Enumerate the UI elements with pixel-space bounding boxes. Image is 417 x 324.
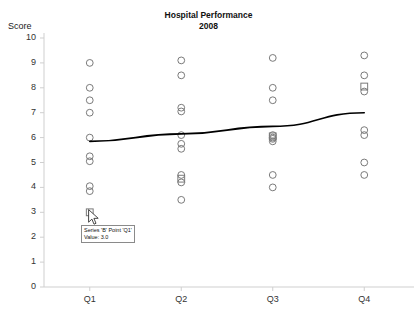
y-tick-label: 4 [12,181,36,191]
data-point-circle[interactable] [178,132,185,139]
data-point-circle[interactable] [361,88,368,95]
data-point-circle[interactable] [178,196,185,203]
x-tick-label: Q1 [70,294,110,304]
y-tick-label: 5 [12,157,36,167]
data-point-circle[interactable] [178,145,185,152]
data-point-circle[interactable] [86,97,93,104]
tooltip: Series 'B' Point 'Q1' Value: 3.0 [81,225,135,243]
y-tick-label: 3 [12,206,36,216]
y-tick-label: 6 [12,132,36,142]
data-point-circle[interactable] [361,52,368,59]
y-tick-label: 1 [12,256,36,266]
x-tick-label: Q3 [253,294,293,304]
x-tick-label: Q2 [161,294,201,304]
data-point-circle[interactable] [269,172,276,179]
data-point-circle[interactable] [178,57,185,64]
data-point-circle[interactable] [361,159,368,166]
data-point-circle[interactable] [269,184,276,191]
x-tick-label: Q4 [344,294,384,304]
data-point-circle[interactable] [361,172,368,179]
chart-container: Hospital Performance 2008 Score 01234567… [0,0,417,324]
y-tick-label: 0 [12,281,36,291]
data-point-circle[interactable] [86,158,93,165]
data-point-circle[interactable] [269,55,276,62]
y-tick-label: 9 [12,57,36,67]
y-tick-label: 7 [12,107,36,117]
y-tick-label: 2 [12,231,36,241]
trend-line [90,113,365,142]
tooltip-line-value: Value: 3.0 [84,234,132,241]
tooltip-line-series: Series 'B' Point 'Q1' [84,227,132,234]
data-point-circle[interactable] [269,97,276,104]
data-point-circle[interactable] [86,134,93,141]
plot-area [0,0,417,324]
data-point-circle[interactable] [86,109,93,116]
data-point-circle[interactable] [86,188,93,195]
data-point-circle[interactable] [86,84,93,91]
data-point-circle[interactable] [269,84,276,91]
y-tick-label: 10 [12,32,36,42]
y-tick-label: 8 [12,82,36,92]
data-point-circle[interactable] [361,72,368,79]
data-point-square[interactable] [86,209,93,216]
data-point-circle[interactable] [86,60,93,67]
data-point-circle[interactable] [361,132,368,139]
data-point-circle[interactable] [178,72,185,79]
